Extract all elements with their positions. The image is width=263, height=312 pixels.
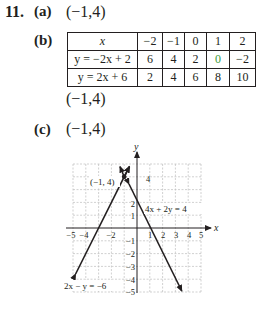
svg-text:2: 2 — [161, 230, 165, 240]
svg-text:3: 3 — [174, 230, 178, 240]
svg-text:−5: −5 — [126, 287, 135, 297]
svg-text:5: 5 — [199, 230, 203, 240]
svg-text:4x + 2y = 4: 4x + 2y = 4 — [145, 204, 187, 214]
svg-text:−4: −4 — [126, 275, 136, 285]
svg-text:(−1, 4): (−1, 4) — [90, 177, 115, 187]
svg-text:−2: −2 — [126, 249, 135, 259]
svg-text:1: 1 — [131, 211, 135, 221]
intersection-point — [122, 174, 127, 179]
x-axis-label: x — [213, 222, 219, 233]
svg-text:4: 4 — [187, 230, 192, 240]
coordinate-graph: x y −5 −4 −2 1 2 3 4 5 4 2 1 −1 −2 −3 −4… — [0, 0, 263, 312]
svg-text:−4: −4 — [79, 230, 89, 240]
svg-text:2x − y = −6: 2x − y = −6 — [64, 281, 107, 291]
svg-text:1: 1 — [148, 230, 152, 240]
y-axis-label: y — [133, 141, 139, 152]
svg-text:−5: −5 — [66, 230, 75, 240]
svg-text:−2: −2 — [106, 230, 115, 240]
svg-text:4: 4 — [146, 174, 151, 184]
svg-text:−3: −3 — [126, 262, 135, 272]
svg-text:−1: −1 — [126, 236, 135, 246]
svg-text:2: 2 — [131, 199, 135, 209]
